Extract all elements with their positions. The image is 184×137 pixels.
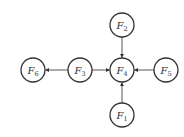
node-f4: F4 <box>110 58 134 82</box>
edges <box>46 37 155 103</box>
node-f6: F6 <box>21 58 45 82</box>
node-f1: F1 <box>110 103 134 127</box>
node-f3: F3 <box>68 58 92 82</box>
node-f2: F2 <box>110 13 134 37</box>
node-f5: F5 <box>154 58 178 82</box>
diagram-canvas: F1F2F3F4F5F6 <box>0 0 184 137</box>
